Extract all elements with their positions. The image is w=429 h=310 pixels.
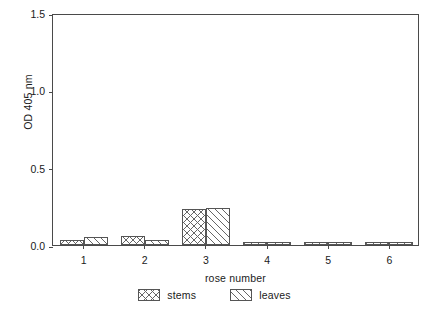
x-tick-label: 4	[247, 254, 287, 266]
x-tick-label: 2	[125, 254, 165, 266]
x-tick-mark	[267, 245, 268, 249]
legend-label-leaves: leaves	[259, 289, 291, 301]
x-tick-label: 5	[308, 254, 348, 266]
y-tick-label: 1.5	[30, 8, 45, 20]
legend-swatch-leaves	[230, 289, 252, 301]
x-tick-mark	[328, 245, 329, 249]
legend-label-stems: stems	[167, 289, 196, 301]
x-tick-mark	[389, 245, 390, 249]
bar-leaves-2	[145, 240, 169, 245]
legend-entry-stems[interactable]: stems	[138, 289, 196, 301]
y-tick-label: 1.0	[30, 85, 45, 97]
bar-stems-3	[182, 209, 206, 245]
chart-figure: OD 405 nm 0.00.51.01.5 123456 rose numbe…	[0, 0, 429, 310]
bar-leaves-4	[267, 242, 291, 245]
x-tick-mark	[205, 245, 206, 249]
plot-area: 0.00.51.01.5 123456	[52, 14, 419, 246]
legend-swatch-stems	[138, 289, 160, 301]
y-axis-label: OD 405 nm	[22, 32, 34, 172]
x-tick-label: 3	[186, 254, 226, 266]
y-tick-label: 0.5	[30, 163, 45, 175]
bar-stems-6	[365, 242, 389, 245]
x-axis-label: rose number	[52, 272, 419, 284]
bar-stems-1	[60, 240, 84, 245]
bar-stems-4	[243, 242, 267, 245]
bar-stems-5	[304, 242, 328, 245]
bar-leaves-5	[328, 242, 352, 245]
y-tick-mark	[49, 15, 53, 16]
y-tick-mark	[49, 247, 53, 248]
bar-stems-2	[121, 236, 145, 245]
x-tick-mark	[83, 245, 84, 249]
y-tick-mark	[49, 92, 53, 93]
bar-leaves-3	[206, 208, 230, 245]
chart-legend: stemsleaves	[0, 289, 429, 301]
legend-entry-leaves[interactable]: leaves	[230, 289, 291, 301]
bar-leaves-1	[84, 237, 108, 245]
y-tick-label: 0.0	[30, 240, 45, 252]
y-tick-mark	[49, 169, 53, 170]
x-tick-label: 6	[369, 254, 409, 266]
x-tick-label: 1	[64, 254, 104, 266]
bar-leaves-6	[389, 242, 413, 245]
x-tick-mark	[144, 245, 145, 249]
